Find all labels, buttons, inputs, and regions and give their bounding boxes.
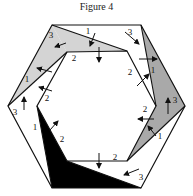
arrow-icon <box>50 121 58 130</box>
edge-label: 3 <box>139 172 144 182</box>
edge-label: 2 <box>143 104 148 114</box>
edge-label: 2 <box>60 134 65 144</box>
edge-label: 1 <box>25 74 30 84</box>
edge-label: 3 <box>173 95 178 105</box>
shaded-regions <box>8 25 185 188</box>
edge-label: 2 <box>72 53 77 63</box>
arrow-icon <box>124 169 139 175</box>
edge-label: 3 <box>49 30 54 40</box>
arrow-icon <box>137 74 149 86</box>
edge-label: 3 <box>128 27 133 37</box>
left-light-region <box>8 25 67 106</box>
edge-label: 2 <box>45 93 50 103</box>
edge-label: 2 <box>113 152 118 162</box>
edge-label: 1 <box>151 65 156 75</box>
edge-label: 3 <box>13 107 18 117</box>
hexagon-diagram: 3132211233212123 <box>0 0 193 196</box>
bottom-black-region <box>37 106 141 188</box>
edge-label: 1 <box>158 131 163 141</box>
edge-label: 1 <box>86 26 91 36</box>
edge-label: 1 <box>33 122 38 132</box>
edge-label: 2 <box>128 67 133 77</box>
